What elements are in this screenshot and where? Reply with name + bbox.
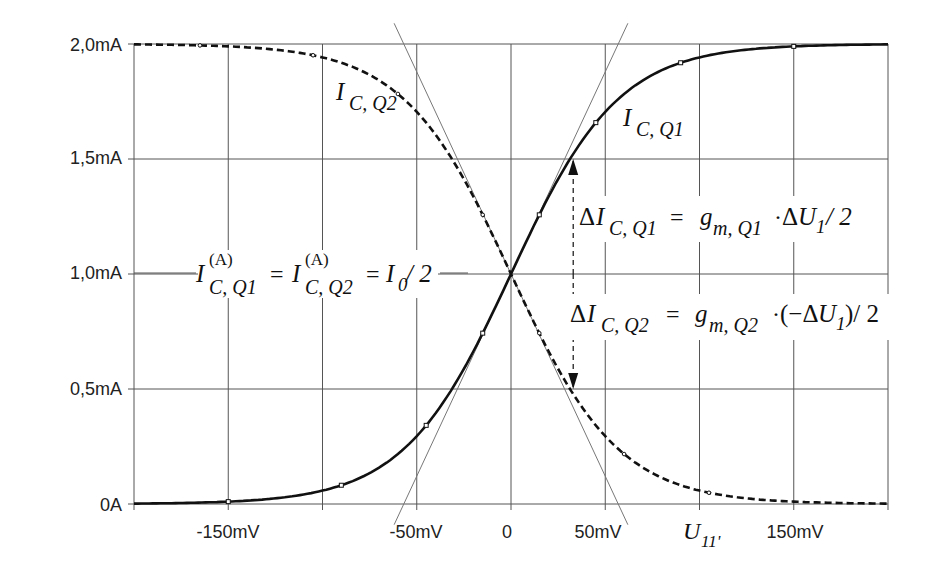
xtick-150: 150mV [766, 522, 823, 542]
delta-ic-q2-equation: Δ I C, Q2 = g m, Q2 · (−Δ U 1 )/ 2 [570, 294, 924, 340]
xtick-m150: -150mV [196, 522, 259, 542]
label-ic-q2: I C, Q2 [335, 78, 397, 114]
arrowhead-icon [568, 373, 578, 389]
svg-text:m, Q1: m, Q1 [713, 217, 762, 239]
marker-q2 [622, 452, 626, 456]
svg-text:=: = [366, 261, 380, 287]
svg-text:m, Q2: m, Q2 [709, 314, 758, 336]
svg-text:C, Q1: C, Q1 [636, 118, 684, 140]
svg-text:C, Q2: C, Q2 [601, 314, 649, 336]
marker-q1 [424, 423, 428, 427]
svg-text:=: = [666, 301, 680, 327]
delta-ic-q1-equation: Δ I C, Q1 = g m, Q1 · Δ U 1 / 2 [576, 196, 876, 242]
marker-q2 [537, 331, 541, 335]
svg-text:(−Δ: (−Δ [780, 300, 819, 328]
marker-q2 [707, 491, 711, 495]
svg-text:(A): (A) [209, 250, 233, 269]
svg-text:/ 2: / 2 [824, 203, 852, 230]
svg-text:g: g [695, 300, 708, 327]
svg-text:U: U [798, 203, 818, 230]
svg-text:U: U [683, 518, 702, 544]
svg-text:C, Q1: C, Q1 [209, 276, 257, 298]
svg-text:=: = [270, 261, 284, 287]
svg-text:·: · [774, 204, 782, 230]
transfer-characteristic-chart: 2,0mA 1,5mA 1,0mA 0,5mA 0A -150mV -50mV … [0, 0, 933, 573]
ytick-1-0: 1,0mA [70, 263, 122, 283]
xtick-0: 0 [502, 522, 512, 542]
svg-text:C, Q2: C, Q2 [349, 92, 397, 114]
xtick-50: 50mV [574, 522, 621, 542]
marker-q2 [481, 213, 485, 217]
marker-q1 [537, 213, 541, 217]
ytick-0: 0A [100, 495, 122, 515]
x-axis-label: U 11' [683, 518, 721, 551]
marker-q2 [311, 53, 315, 57]
marker-q1 [792, 44, 796, 48]
svg-text:I: I [335, 78, 346, 105]
ytick-0-5: 0,5mA [70, 379, 122, 399]
svg-text:U: U [818, 300, 838, 327]
ytick-1-5: 1,5mA [70, 148, 122, 168]
svg-text:)/ 2: )/ 2 [845, 300, 879, 328]
marker-q1 [339, 483, 343, 487]
svg-text:1: 1 [816, 216, 826, 237]
svg-text:C, Q2: C, Q2 [305, 276, 353, 298]
svg-text:/ 2: / 2 [404, 260, 432, 287]
svg-text:Δ: Δ [782, 203, 798, 230]
xtick-m50: -50mV [389, 522, 442, 542]
svg-text:(A): (A) [305, 250, 329, 269]
marker-q2 [198, 44, 202, 48]
marker-q1 [594, 121, 598, 125]
svg-text:C, Q1: C, Q1 [609, 217, 657, 239]
ytick-2-0: 2,0mA [70, 35, 122, 55]
svg-text:Δ: Δ [570, 300, 586, 327]
marker-q1 [679, 61, 683, 65]
marker-q1 [226, 500, 230, 504]
svg-text:g: g [700, 203, 713, 230]
svg-text:=: = [670, 204, 684, 230]
svg-text:11': 11' [701, 532, 721, 551]
svg-text:Δ: Δ [579, 203, 595, 230]
marker-q1 [481, 331, 485, 335]
svg-text:·: · [772, 301, 780, 327]
label-ic-q1: I C, Q1 [620, 104, 702, 146]
